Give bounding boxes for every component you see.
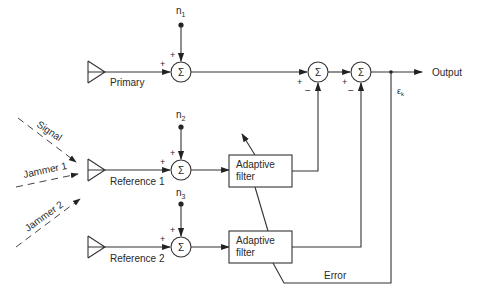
svg-text:Σ: Σ [315, 67, 321, 78]
jammer2-wave: Jammer 2 [16, 198, 80, 247]
sum3-plus: + [342, 77, 347, 87]
reference1-label: Reference 1 [110, 176, 165, 187]
svg-text:filter: filter [236, 171, 256, 182]
n1-label: n1 [176, 5, 186, 18]
jammer1-wave: Jammer 1 [16, 160, 78, 187]
sum-junction-reference1: Σ [171, 160, 191, 180]
reference2-label: Reference 2 [110, 253, 165, 264]
error-label: Error [324, 270, 347, 281]
error-epsilon-label: εk [397, 86, 405, 97]
svg-text:filter: filter [236, 247, 256, 258]
sum-junction-primary: Σ [171, 62, 191, 82]
sum2-plus: + [297, 77, 302, 87]
signal-label: Signal [35, 119, 64, 144]
svg-text:Σ: Σ [358, 67, 364, 78]
adjust-arrow [242, 134, 255, 155]
sum2-minus: − [305, 85, 311, 96]
filter2-to-sum3 [292, 83, 361, 247]
jammer1-label: Jammer 1 [22, 160, 68, 180]
adaptive-array-diagram: Signal Jammer 1 Jammer 2 Primary + n1 + … [0, 0, 478, 299]
svg-text:Adaptive: Adaptive [236, 159, 275, 170]
primary-plus: + [160, 59, 165, 69]
n2-label: n2 [176, 109, 186, 122]
sum-junction-3: Σ [351, 62, 371, 82]
adjust-line-between [255, 187, 268, 231]
n3-label: n3 [176, 187, 186, 200]
n2-plus: + [170, 148, 175, 158]
primary-label: Primary [110, 77, 144, 88]
adaptive-filter-1: Adaptive filter [229, 155, 292, 187]
sum-junction-2: Σ [308, 62, 328, 82]
reference1-plus: + [160, 157, 165, 167]
reference1-antenna [88, 159, 105, 181]
output-label: Output [432, 67, 462, 78]
primary-antenna [88, 61, 105, 83]
svg-text:Σ: Σ [178, 165, 184, 176]
reference2-plus: + [160, 234, 165, 244]
svg-text:Σ: Σ [178, 67, 184, 78]
reference2-antenna [88, 236, 105, 258]
n1-plus: + [170, 50, 175, 60]
sum-junction-reference2: Σ [171, 237, 191, 257]
svg-text:Σ: Σ [178, 242, 184, 253]
sum3-minus: − [348, 85, 354, 96]
n3-plus: + [170, 225, 175, 235]
adaptive-filter-2: Adaptive filter [229, 231, 292, 263]
svg-text:Adaptive: Adaptive [236, 235, 275, 246]
jammer2-label: Jammer 2 [23, 198, 66, 233]
filter1-to-sum2 [292, 83, 318, 171]
signal-wave: Signal [18, 118, 76, 162]
